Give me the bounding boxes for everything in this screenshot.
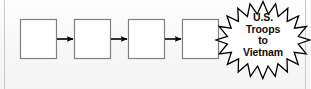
starburst-label-line-4: Vietnam <box>233 47 293 59</box>
node-box-3 <box>129 20 165 59</box>
node-box-4 <box>183 20 219 59</box>
node-box-2 <box>75 20 111 59</box>
starburst-label: U.S. Troops to Vietnam <box>233 12 293 58</box>
starburst-label-line-3: to <box>233 35 293 47</box>
starburst-label-line-1: U.S. <box>233 12 293 24</box>
flow-chart-figure: U.S. Troops to Vietnam <box>0 0 311 89</box>
node-box-1 <box>21 20 57 59</box>
